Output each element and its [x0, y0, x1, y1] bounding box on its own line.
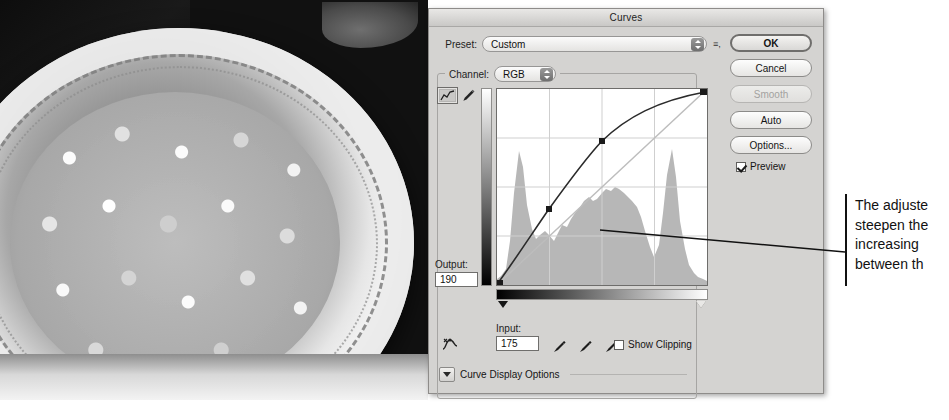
- curve-edit-icon[interactable]: [437, 87, 458, 104]
- channel-value: RGB: [503, 69, 540, 80]
- section-divider: [570, 374, 687, 375]
- annotation-bracket: [845, 194, 847, 286]
- photo-tablecloth: [0, 354, 428, 400]
- show-clipping-row[interactable]: Show Clipping: [614, 339, 692, 350]
- photo-pasta-pile: [10, 92, 340, 392]
- output-field-group: Output: 190: [435, 259, 478, 287]
- auto-button[interactable]: Auto: [730, 111, 812, 129]
- smooth-button: Smooth: [730, 85, 812, 103]
- cancel-button[interactable]: Cancel: [730, 59, 812, 77]
- curve-point-white: [700, 89, 707, 95]
- dialog-title: Curves: [610, 12, 643, 23]
- input-field-group: Input: 175: [496, 323, 539, 351]
- input-input[interactable]: 175: [496, 336, 539, 351]
- preset-menu-icon[interactable]: ≡,: [713, 40, 721, 49]
- curve-display-options-label: Curve Display Options: [460, 369, 559, 380]
- curve-point-highlight: [599, 138, 605, 144]
- preset-value: Custom: [491, 39, 691, 50]
- gray-point-eyedropper-icon[interactable]: [579, 337, 593, 353]
- annotation-line: The adjuste: [855, 196, 949, 216]
- dialog-titlebar[interactable]: Curves: [429, 9, 823, 27]
- preview-row[interactable]: Preview: [736, 161, 812, 172]
- output-gradient-bar: [481, 88, 492, 286]
- dialog-button-column: OK Cancel Smooth Auto Options... Preview: [730, 34, 812, 172]
- preview-checkbox[interactable]: [736, 162, 746, 172]
- output-label: Output:: [435, 259, 478, 270]
- preset-label: Preset:: [437, 39, 477, 50]
- channel-dropdown[interactable]: RGB: [494, 66, 556, 82]
- chevron-down-icon[interactable]: [439, 367, 455, 382]
- screenshot-root: Curves Preset: Custom ≡, Channel: RGB: [0, 0, 949, 420]
- black-point-slider[interactable]: [498, 301, 508, 308]
- annotation-text: The adjuste steepen the increasing betwe…: [855, 196, 949, 274]
- black-point-eyedropper-icon[interactable]: [553, 337, 567, 353]
- curve-point-shadow: [546, 206, 552, 212]
- show-clipping-checkbox[interactable]: [614, 340, 624, 350]
- annotation-line: steepen the: [855, 216, 949, 236]
- options-button[interactable]: Options...: [730, 136, 812, 154]
- pasta-photo: [0, 0, 428, 400]
- input-gradient-bar: [496, 289, 708, 300]
- chevron-updown-icon: [540, 68, 553, 81]
- smooth-curve-icon[interactable]: [441, 335, 459, 353]
- curve-point-black: [497, 280, 503, 285]
- annotation-line: increasing: [855, 235, 949, 255]
- channel-row: Channel: RGB: [445, 66, 560, 82]
- show-clipping-label: Show Clipping: [628, 339, 692, 350]
- curve-display-options-row[interactable]: Curve Display Options: [439, 367, 687, 382]
- annotation-line: between th: [855, 255, 949, 275]
- preset-dropdown[interactable]: Custom: [482, 36, 707, 52]
- photo-bottom-margin: [0, 400, 428, 420]
- pencil-icon[interactable]: [461, 88, 476, 103]
- eyedropper-group: [553, 337, 619, 353]
- output-input[interactable]: 190: [435, 272, 478, 287]
- white-point-slider[interactable]: [696, 301, 706, 308]
- curve-graph-area: [481, 88, 709, 302]
- curve-graph-svg: [497, 89, 707, 285]
- preview-label: Preview: [750, 161, 786, 172]
- input-label: Input:: [496, 323, 539, 334]
- chevron-updown-icon: [691, 38, 704, 51]
- input-gradient-bar-wrap: [496, 289, 708, 300]
- channel-label: Channel:: [449, 69, 489, 80]
- ok-button[interactable]: OK: [730, 34, 812, 52]
- curve-tool-group: [437, 87, 476, 104]
- photo-leaf: [322, 2, 418, 48]
- curve-graph[interactable]: [496, 88, 708, 286]
